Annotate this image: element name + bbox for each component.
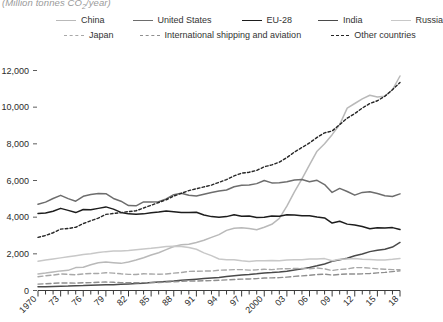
- svg-text:88: 88: [160, 294, 174, 308]
- series-line-russia: [38, 246, 400, 261]
- x-axis-label: 73: [47, 294, 61, 308]
- svg-text:76: 76: [70, 294, 84, 308]
- x-axis-label: 85: [137, 294, 151, 308]
- x-axis-label: 91: [183, 294, 197, 308]
- svg-text:15: 15: [364, 294, 378, 308]
- x-axis-label: 12: [341, 294, 355, 308]
- svg-text:18: 18: [386, 294, 400, 308]
- y-axis-label: 4,000: [6, 212, 29, 222]
- x-axis-label: 82: [115, 294, 129, 308]
- x-axis-label: 09: [318, 294, 332, 308]
- x-axis-label: 03: [273, 294, 287, 308]
- x-axis-label: 76: [70, 294, 84, 308]
- y-axis-label: 2,000: [6, 249, 29, 259]
- svg-text:97: 97: [228, 294, 242, 308]
- svg-text:82: 82: [115, 294, 129, 308]
- y-axis-label: 12,000: [1, 66, 29, 76]
- svg-text:1970: 1970: [17, 294, 38, 315]
- series-line-china: [38, 76, 400, 274]
- series-line-other-countries: [38, 82, 400, 237]
- y-axis-label: 8,000: [6, 139, 29, 149]
- svg-text:2000: 2000: [243, 294, 264, 315]
- x-axis-label: 18: [386, 294, 400, 308]
- y-axis-label: 10,000: [1, 102, 29, 112]
- svg-text:91: 91: [183, 294, 197, 308]
- svg-text:73: 73: [47, 294, 61, 308]
- svg-text:85: 85: [137, 294, 151, 308]
- x-axis-label: 06: [296, 294, 310, 308]
- series-line-japan: [38, 268, 400, 277]
- x-axis-label: 97: [228, 294, 242, 308]
- y-axis-label: 6,000: [6, 176, 29, 186]
- y-axis-label: 0: [24, 286, 29, 296]
- svg-text:06: 06: [296, 294, 310, 308]
- svg-text:79: 79: [92, 294, 106, 308]
- svg-text:12: 12: [341, 294, 355, 308]
- x-axis-label: 94: [205, 294, 219, 308]
- x-axis-label: 79: [92, 294, 106, 308]
- x-axis-label: 15: [364, 294, 378, 308]
- x-axis-label: 88: [160, 294, 174, 308]
- series-line-united-states: [38, 180, 400, 206]
- x-axis-label: 2000: [243, 294, 264, 315]
- legend-label: Russia: [416, 16, 443, 25]
- svg-text:09: 09: [318, 294, 332, 308]
- x-axis-label: 1970: [17, 294, 38, 315]
- svg-text:03: 03: [273, 294, 287, 308]
- series-line-eu-28: [38, 207, 400, 230]
- svg-text:94: 94: [205, 294, 219, 308]
